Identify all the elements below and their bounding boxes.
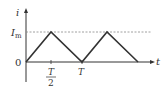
x-axis-label: t (156, 56, 161, 67)
x-axis-arrow-icon (150, 60, 155, 64)
y-axis-label: i (16, 7, 19, 18)
y-axis-arrow-icon (24, 8, 28, 13)
origin-label: 0 (15, 57, 21, 68)
wave-line (26, 32, 138, 62)
half-period-numerator: T (48, 67, 55, 77)
half-period-denominator: 2 (48, 78, 54, 88)
period-label: T (78, 67, 85, 77)
peak-label: Im (10, 27, 22, 40)
triangular-wave-diagram: i t 0 Im T 2 T (0, 0, 163, 93)
